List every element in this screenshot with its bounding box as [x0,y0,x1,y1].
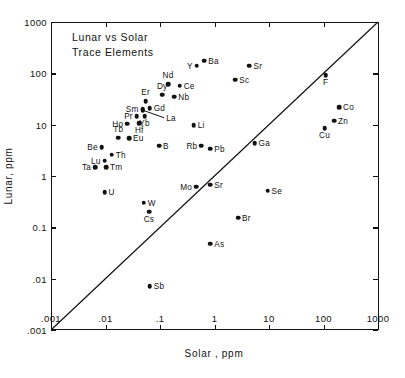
data-point [127,136,132,141]
data-point-label: Se [272,186,283,195]
data-point-label: B [163,141,169,150]
data-point-label: Sr [253,61,262,70]
data-point-label: As [214,239,224,248]
x-tick-label: 10 [263,313,274,324]
data-point [236,215,241,220]
data-point [265,188,270,193]
data-point [172,94,177,99]
data-point-label: Cs [144,215,155,224]
data-point-label: U [109,188,115,197]
x-tick-bottom [378,325,379,330]
data-point-label: Th [116,150,126,159]
data-point [135,114,140,119]
data-point-label: Br [242,213,251,222]
data-point [199,143,204,148]
y-tick-label: 0.1 [33,222,47,233]
la-annotation-label: La [166,113,176,122]
data-point [247,64,252,69]
data-point-label: Tb [113,125,123,134]
data-point-label: Er [141,88,150,97]
data-point [147,106,152,111]
data-point-label: Cu [319,131,330,140]
data-point [142,114,147,119]
data-point [100,145,105,150]
data-point [125,121,130,126]
data-point-label: Nd [163,71,174,80]
data-point [337,105,342,110]
x-tick-bottom [269,325,270,330]
data-point-label: Be [87,143,98,152]
x-tick-label: 1000 [367,313,390,324]
chart-figure: Lunar vs Solar Trace Elements BaYSrScNdC… [0,0,405,378]
x-tick-label: 100 [315,313,332,324]
data-point [116,135,121,140]
y-tick-right [373,73,378,74]
data-point-label: Y [187,61,193,70]
y-tick-label: .01 [33,273,47,284]
y-tick-label: 1000 [24,17,47,28]
x-tick-top [324,22,325,27]
data-point [208,146,213,151]
data-point [143,99,148,104]
data-point-label: Gd [154,104,165,113]
x-tick-label: 1 [212,313,218,324]
data-point [252,141,257,146]
data-point [192,123,197,128]
data-point [109,152,114,157]
y-tick-right [373,330,378,331]
data-point-label: Pb [214,144,225,153]
data-point-label: Nb [178,92,189,101]
y-tick-left [51,330,56,331]
data-point-label: Sb [154,281,165,290]
data-point [332,118,337,123]
data-point [104,165,109,170]
y-tick-label: 1 [41,171,47,182]
data-point-label: Pr [124,112,133,121]
data-point [102,190,107,195]
data-point-label: Rb [186,141,197,150]
data-point [147,284,152,289]
data-point [140,108,145,113]
y-tick-label: .001 [27,325,47,336]
y-tick-left [51,22,56,23]
x-axis-title: Solar , ppm [185,348,244,359]
data-point-label: Zn [338,116,348,125]
data-point [93,165,98,170]
data-point-label: W [148,198,156,207]
plot-area: BaYSrScNdCeDyNbErGdSmYbPrHfHoLiTbEuBeBRb… [51,22,378,330]
data-point [157,143,162,148]
y-tick-right [373,176,378,177]
data-point [194,64,199,69]
y-tick-right [373,22,378,23]
data-point [141,201,146,206]
x-tick-bottom [106,325,107,330]
data-point-label: Dy [157,82,168,91]
data-point-label: Ba [208,56,219,65]
data-point [202,59,207,64]
data-point-label: Eu [133,134,144,143]
data-point [160,93,165,98]
y-tick-left [51,125,56,126]
x-tick-top [106,22,107,27]
x-tick-top [269,22,270,27]
data-point-label: Co [343,103,354,112]
data-point-label: Sc [239,75,249,84]
data-points-layer: BaYSrScNdCeDyNbErGdSmYbPrHfHoLiTbEuBeBRb… [52,22,378,329]
y-tick-right [373,227,378,228]
y-tick-left [51,176,56,177]
x-tick-top [215,22,216,27]
y-tick-label: 100 [30,68,47,79]
data-point [137,121,142,126]
x-tick-bottom [215,325,216,330]
y-tick-left [51,227,56,228]
x-tick-top [160,22,161,27]
x-tick-bottom [324,325,325,330]
data-point-label: Ce [184,81,195,90]
y-tick-left [51,73,56,74]
data-point [323,73,328,78]
data-point-label: Tm [110,162,122,171]
data-point [147,210,152,215]
x-tick-bottom [160,325,161,330]
data-point [208,182,213,187]
data-point-label: Ga [259,139,270,148]
